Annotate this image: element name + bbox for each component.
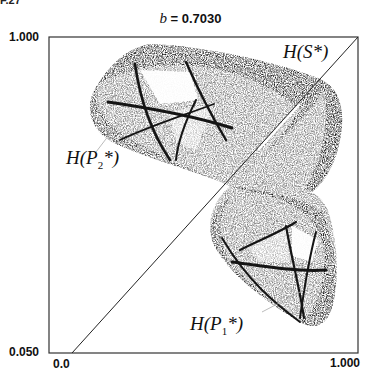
x-tick-left: 0.0 xyxy=(53,357,70,371)
x-tick-right: 1.000 xyxy=(330,356,360,370)
attractor xyxy=(72,37,358,353)
label-h-s-star: H(S*) xyxy=(283,41,328,63)
label-h-p2-star: H(P2*) xyxy=(66,147,119,171)
figure: F.27 b = 0.7030 xyxy=(0,0,381,388)
y-tick-top: 1.000 xyxy=(9,30,39,44)
label-p1-end: *) xyxy=(227,313,243,334)
y-tick-bottom: 0.050 xyxy=(9,345,39,359)
label-p2-end: *) xyxy=(103,147,119,168)
label-p2-main: H(P xyxy=(66,147,98,168)
label-p1-main: H(P xyxy=(190,313,222,334)
label-h-p1-star: H(P1*) xyxy=(190,313,243,337)
